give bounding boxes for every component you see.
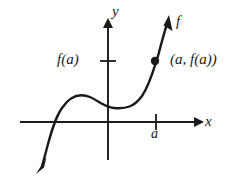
point-marker-a-fa (151, 57, 159, 65)
curve-label-f: f (176, 14, 180, 29)
curve-arrow-down (36, 157, 47, 174)
function-graph-figure: y x f a f(a) (a, f(a)) (0, 0, 226, 181)
x-axis-label: x (205, 114, 212, 129)
x-tick-label-a: a (151, 127, 158, 141)
graph-canvas (0, 0, 226, 181)
y-tick-label-fa: f(a) (57, 52, 79, 67)
point-label-a-fa: (a, f(a)) (170, 52, 217, 67)
y-axis-label: y (112, 4, 119, 19)
function-curve (42, 24, 167, 166)
